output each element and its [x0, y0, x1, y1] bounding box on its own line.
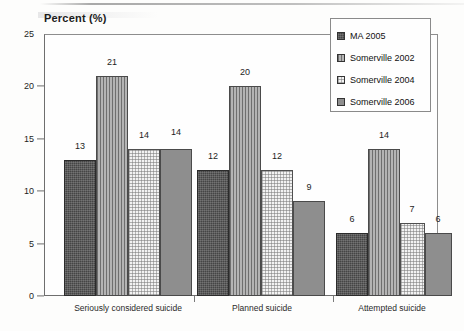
bar-value-g2-s0: 6 — [349, 214, 354, 224]
category-label-1: Planned suicide — [232, 303, 292, 313]
bar-g0-s0[interactable] — [64, 160, 96, 296]
bar-value-g1-s3: 9 — [306, 182, 311, 192]
bar-g0-s3[interactable] — [160, 149, 192, 296]
bar-chart: Percent (%) 25 20 15 10 5 0 13 21 14 14 … — [0, 0, 464, 331]
bar-value-g1-s1: 20 — [240, 67, 250, 77]
bar-g1-s3[interactable] — [293, 201, 325, 296]
bar-g0-s1[interactable] — [96, 76, 128, 296]
bar-value-g0-s0: 13 — [75, 141, 85, 151]
category-label-0: Seriously considered suicide — [74, 303, 182, 313]
bar-g2-s3[interactable] — [425, 233, 452, 296]
category-label-2: Attempted suicide — [358, 303, 426, 313]
x-tick-mark-2 — [333, 296, 334, 302]
bar-value-g0-s3: 14 — [171, 127, 181, 137]
legend-item-somerville-2002[interactable]: Somerville 2002 — [337, 47, 430, 69]
bar-g2-s2[interactable] — [400, 223, 425, 296]
legend-label-2: Somerville 2004 — [350, 75, 415, 85]
legend-swatch-icon-2 — [337, 76, 345, 84]
bar-g1-s0[interactable] — [197, 170, 229, 296]
bar-value-g2-s3: 6 — [435, 214, 440, 224]
bar-value-g2-s2: 7 — [409, 204, 414, 214]
legend-swatch-icon-3 — [337, 98, 345, 106]
legend-swatch-icon-1 — [337, 54, 345, 62]
x-tick-mark-1 — [194, 296, 195, 302]
legend: MA 2005 Somerville 2002 Somerville 2004 … — [330, 18, 431, 112]
bar-value-g0-s2: 14 — [139, 130, 149, 140]
bar-g1-s2[interactable] — [261, 170, 293, 296]
bar-value-g1-s2: 12 — [272, 151, 282, 161]
legend-item-ma-2005[interactable]: MA 2005 — [337, 25, 430, 47]
legend-swatch-icon-0 — [337, 32, 345, 40]
bar-value-g0-s1: 21 — [107, 57, 117, 67]
bar-g0-s2[interactable] — [128, 149, 160, 296]
legend-label-0: MA 2005 — [350, 31, 386, 41]
legend-label-3: Somerville 2006 — [350, 97, 415, 107]
legend-label-1: Somerville 2002 — [350, 53, 415, 63]
bar-g2-s0[interactable] — [336, 233, 368, 296]
bar-g1-s1[interactable] — [229, 86, 261, 296]
legend-item-somerville-2006[interactable]: Somerville 2006 — [337, 91, 430, 113]
bar-value-g1-s0: 12 — [208, 151, 218, 161]
legend-item-somerville-2004[interactable]: Somerville 2004 — [337, 69, 430, 91]
bar-value-g2-s1: 14 — [379, 130, 389, 140]
bar-g2-s1[interactable] — [368, 149, 400, 296]
